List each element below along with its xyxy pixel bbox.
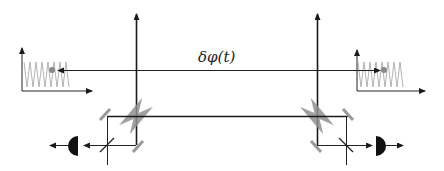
phase-label: δφ(t)	[198, 48, 235, 66]
right-marker-dot	[381, 67, 387, 73]
right-oscillation-trace	[358, 62, 403, 87]
left-mirror-top	[100, 109, 110, 120]
right-mirror-bottom	[311, 141, 321, 152]
right-mirror-top	[343, 109, 353, 120]
diagram-canvas	[0, 0, 444, 171]
interferometer-diagram: δφ(t)	[0, 0, 444, 171]
right-detector	[376, 136, 386, 156]
left-mirror-bottom	[133, 141, 143, 152]
left-detector	[68, 136, 78, 156]
left-oscillation-trace	[24, 62, 69, 87]
left-fringe-plot	[22, 48, 92, 91]
left-marker-dot	[49, 67, 55, 73]
